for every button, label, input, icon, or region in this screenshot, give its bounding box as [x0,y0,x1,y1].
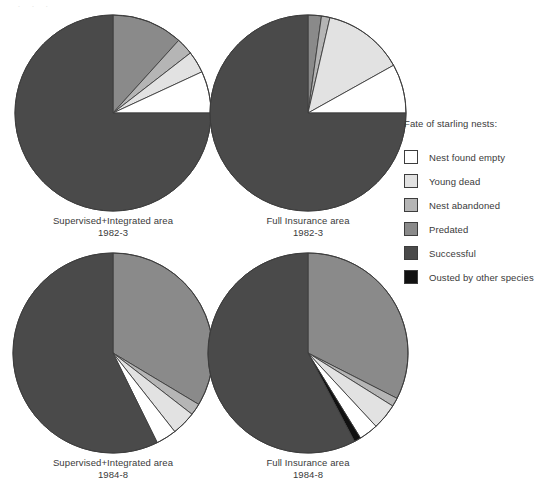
pie-svg-0: Predated: 11.7%Nest abandoned: 2.8%Young… [14,14,212,212]
legend-item-young-dead: Young dead [404,169,548,193]
pie-chart-supervised-integrated-1982-3: Predated: 11.7%Nest abandoned: 2.8%Young… [14,14,212,238]
pie-caption-2: Supervised+Integrated area 1984-8 [12,457,214,480]
legend-item-ousted-by-other-species: Ousted by other species [404,265,548,289]
pie-slices-0: Predated: 11.7%Nest abandoned: 2.8%Young… [15,15,211,211]
legend-label-nest-abandoned: Nest abandoned [429,200,500,211]
legend-item-predated: Predated [404,217,548,241]
pie-caption-0-line1: Supervised+Integrated area [14,215,212,227]
pie-slices-2: Predated: 33.6%Nest abandoned: 1.9%Young… [13,253,213,453]
legend-items: Nest found empty Young dead Nest abandon… [404,145,548,289]
pie-slices-1: Predated: 2.2%Nest abandoned: 1.4%Young … [210,15,406,211]
legend-item-nest-abandoned: Nest abandoned [404,193,548,217]
pie-caption-1: Full Insurance area 1982-3 [209,215,407,238]
legend-swatch-successful [404,246,418,260]
pie-slices-3: Predated: 32.5%Nest abandoned: 1.4%Young… [208,253,408,453]
pie-caption-3-line2: 1984-8 [207,469,409,481]
pie-caption-3-line1: Full Insurance area [207,457,409,469]
legend-label-nest-found-empty: Nest found empty [429,152,505,163]
legend-label-predated: Predated [429,224,468,235]
pie-chart-full-insurance-1984-8: Predated: 32.5%Nest abandoned: 1.4%Young… [207,252,409,480]
starling-nest-fate-figure: . . . Predated: 11.7%Nest abandoned: 2.8… [0,0,548,487]
pie-caption-0-line2: 1982-3 [14,227,212,239]
pie-svg-3: Predated: 32.5%Nest abandoned: 1.4%Young… [207,252,409,454]
pie-caption-0: Supervised+Integrated area 1982-3 [14,215,212,238]
legend-label-young-dead: Young dead [429,176,480,187]
pie-caption-3: Full Insurance area 1984-8 [207,457,409,480]
legend-swatch-nest-found-empty [404,150,418,164]
legend-swatch-ousted-by-other-species [404,270,418,284]
legend-swatch-nest-abandoned [404,198,418,212]
legend-title: Fate of starling nests: [404,118,548,129]
legend-swatch-predated [404,222,418,236]
pie-caption-2-line1: Supervised+Integrated area [12,457,214,469]
legend-item-successful: Successful [404,241,548,265]
pie-svg-1: Predated: 2.2%Nest abandoned: 1.4%Young … [209,14,407,212]
pie-caption-1-line2: 1982-3 [209,227,407,239]
pie-caption-2-line2: 1984-8 [12,469,214,481]
legend-label-ousted-by-other-species: Ousted by other species [429,272,534,283]
pie-caption-1-line1: Full Insurance area [209,215,407,227]
pie-chart-supervised-integrated-1984-8: Predated: 33.6%Nest abandoned: 1.9%Young… [12,252,214,480]
legend-label-successful: Successful [429,248,476,259]
pie-chart-full-insurance-1982-3: Predated: 2.2%Nest abandoned: 1.4%Young … [209,14,407,238]
legend-item-nest-found-empty: Nest found empty [404,145,548,169]
legend-swatch-young-dead [404,174,418,188]
legend: Fate of starling nests: Nest found empty… [404,118,548,289]
pie-svg-2: Predated: 33.6%Nest abandoned: 1.9%Young… [12,252,214,454]
scan-artifact-text: . . . [18,1,53,8]
